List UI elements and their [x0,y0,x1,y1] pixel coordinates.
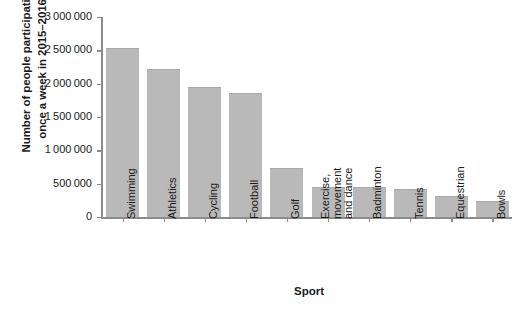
y-axis-tick-mark [97,84,101,85]
x-axis-title: Sport [0,285,522,297]
x-axis-tick-label-line: Athletics [167,177,179,219]
y-axis-tick-mark [97,217,101,218]
x-axis-tick-label-line: Equestrian [455,166,467,219]
y-axis-tick-label: 2 500 000 [45,44,92,55]
y-axis-tick-label: 3 000 000 [45,11,92,22]
y-axis-tick-mark [97,184,101,185]
x-axis-tick-label: Athletics [167,177,179,219]
y-axis-tick-label: 1 000 000 [45,144,92,155]
x-axis-tick-label-line: Badminton [372,166,384,219]
x-axis-tick-label-line: Golf [290,199,302,219]
y-axis-tick-mark [97,50,101,51]
y-axis-tick-mark [97,150,101,151]
y-axis-tick-mark [97,117,101,118]
x-axis-tick-label: Tennis [414,187,426,219]
x-axis-tick-label-line: Exercise, [320,168,332,219]
y-axis-line [101,17,103,218]
x-axis-tick-label: Equestrian [455,166,467,219]
y-axis-tick-mark [97,17,101,18]
x-axis-tick-label: Badminton [372,166,384,219]
x-axis-tick-label: Football [249,180,261,219]
x-axis-tick-label: Cycling [208,183,220,219]
bar-chart: Number of people participating once a we… [0,0,522,315]
x-axis-tick-label: Swimming [126,168,138,219]
y-axis-tick-label: 1 500 000 [45,111,92,122]
x-axis-tick-label: Exercise,movementand dance [320,168,355,219]
y-axis-tick-label: 0 [86,211,92,222]
x-axis-tick-label-line: Bowls [496,190,508,219]
y-axis-tick-label: 2 000 000 [45,78,92,89]
plot-area [101,17,512,217]
x-axis-tick-label: Golf [290,199,302,219]
y-axis-tick-label: 500 000 [53,178,92,189]
y-axis-tick-labels: 3 000 0002 500 0002 000 0001 500 0001 00… [0,0,100,315]
x-axis-tick-label-line: and dance [343,168,355,219]
x-axis-tick-label-line: Tennis [414,187,426,219]
x-axis-tick-label: Bowls [496,190,508,219]
x-axis-tick-label-line: Football [249,180,261,219]
x-axis-tick-label-line: Swimming [126,168,138,219]
x-axis-tick-labels: SwimmingAthleticsCyclingFootballGolfExer… [101,219,512,287]
x-axis-tick-label-line: Cycling [208,183,220,219]
